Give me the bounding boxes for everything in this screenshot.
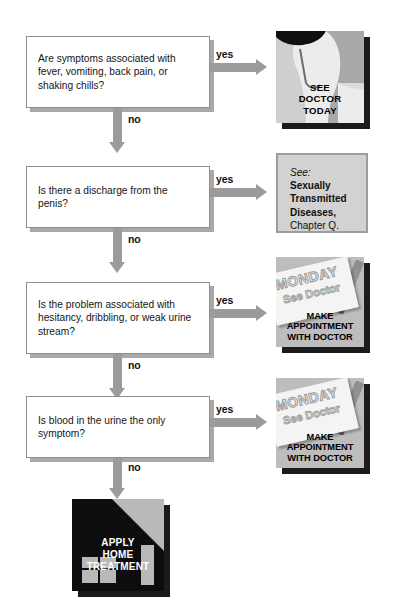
home-caption-line1: APPLY bbox=[72, 537, 164, 549]
reference-title-line2: Transmitted bbox=[290, 192, 366, 205]
appointment-b-line2: APPOINTMENT bbox=[276, 442, 364, 453]
no-arrow-3 bbox=[113, 354, 122, 388]
doctor-caption-line3: TODAY bbox=[276, 105, 364, 116]
yes-arrow-2 bbox=[210, 188, 256, 197]
no-arrow-4 bbox=[113, 458, 122, 488]
appointment-b-line1: MAKE bbox=[276, 432, 364, 443]
no-label-2: no bbox=[128, 233, 141, 245]
appointment-caption-a: MAKE APPOINTMENT WITH DOCTOR bbox=[276, 311, 364, 343]
doctor-caption-line2: DOCTOR bbox=[276, 93, 364, 104]
appointment-b-line3: WITH DOCTOR bbox=[276, 453, 364, 464]
yes-label-2: yes bbox=[216, 173, 233, 185]
decision-box-3[interactable]: Is the problem associated with hesitancy… bbox=[26, 282, 210, 354]
appointment-caption-b: MAKE APPOINTMENT WITH DOCTOR bbox=[276, 432, 364, 464]
appointment-a-line2: APPOINTMENT bbox=[276, 321, 364, 332]
decision-box-2[interactable]: Is there a discharge from the penis? bbox=[26, 166, 210, 228]
decision-box-3-text: Is the problem associated with hesitancy… bbox=[27, 283, 209, 338]
outcome-make-appointment-b[interactable]: MONDAY See Doctor MAKE APPOINTMENT WITH … bbox=[276, 378, 364, 468]
home-caption-line3: TREATMENT bbox=[72, 561, 164, 573]
yes-arrow-1 bbox=[210, 63, 256, 72]
home-caption: APPLY HOME TREATMENT bbox=[72, 537, 164, 573]
reference-chapter: Chapter Q. bbox=[290, 219, 366, 232]
no-label-4: no bbox=[128, 461, 141, 473]
doctor-caption: SEE DOCTOR TODAY bbox=[276, 82, 364, 116]
decision-box-4-text: Is blood in the urine the only symptom? bbox=[27, 397, 209, 441]
yes-label-1: yes bbox=[216, 48, 233, 60]
reference-text-block: See: Sexually Transmitted Diseases, Chap… bbox=[278, 155, 366, 232]
yes-arrow-3 bbox=[210, 309, 256, 318]
no-arrow-2 bbox=[113, 228, 122, 262]
outcome-reference-std[interactable]: See: Sexually Transmitted Diseases, Chap… bbox=[276, 153, 368, 233]
no-arrow-1 bbox=[113, 108, 122, 142]
reference-see-label: See: bbox=[290, 166, 366, 179]
decision-box-2-text: Is there a discharge from the penis? bbox=[27, 167, 209, 211]
reference-title-line1: Sexually bbox=[290, 179, 366, 192]
doctor-caption-line1: SEE bbox=[276, 82, 364, 93]
no-label-3: no bbox=[128, 359, 141, 371]
no-label-1: no bbox=[128, 113, 141, 125]
outcome-see-doctor-today[interactable]: SEE DOCTOR TODAY bbox=[276, 31, 364, 123]
appointment-a-line1: MAKE bbox=[276, 311, 364, 322]
home-caption-line2: HOME bbox=[72, 549, 164, 561]
decision-box-4[interactable]: Is blood in the urine the only symptom? bbox=[26, 396, 210, 458]
flowchart-canvas: Are symptoms associated with fever, vomi… bbox=[0, 0, 405, 608]
reference-title-line3: Diseases, bbox=[290, 206, 366, 219]
decision-box-1[interactable]: Are symptoms associated with fever, vomi… bbox=[26, 36, 210, 108]
outcome-make-appointment-a[interactable]: MONDAY See Doctor MAKE APPOINTMENT WITH … bbox=[276, 257, 364, 347]
yes-arrow-4 bbox=[210, 418, 256, 427]
outcome-apply-home-treatment[interactable]: APPLY HOME TREATMENT bbox=[72, 499, 164, 591]
yes-label-4: yes bbox=[216, 403, 233, 415]
appointment-a-line3: WITH DOCTOR bbox=[276, 332, 364, 343]
yes-label-3: yes bbox=[216, 294, 233, 306]
decision-box-1-text: Are symptoms associated with fever, vomi… bbox=[27, 37, 209, 92]
